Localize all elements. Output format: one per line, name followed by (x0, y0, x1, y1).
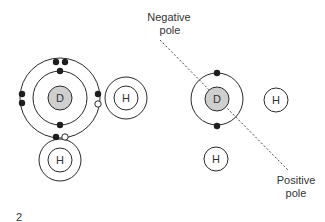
molecule-diagram: H H D D H H (0, 0, 325, 222)
electron-icon (214, 123, 220, 129)
electron-icon (53, 59, 59, 65)
right-h-bottom-label: H (212, 153, 220, 165)
left-d-label: D (56, 92, 64, 104)
electron-icon (57, 122, 63, 128)
left-h-right-label: H (122, 92, 130, 104)
electron-icon (53, 134, 59, 140)
right-d-label: D (213, 93, 221, 105)
right-h-right-label: H (272, 94, 280, 106)
electron-icon (95, 91, 101, 97)
positive-pole-label-line1: Positive (277, 174, 316, 186)
electron-icon (19, 91, 25, 97)
hydrogen-electron-icon (95, 101, 101, 107)
positive-pole-label-line2: pole (286, 187, 307, 199)
hydrogen-electron-icon (62, 134, 68, 140)
figure-number: 2 (16, 211, 22, 222)
left-molecule: H H D (19, 58, 147, 181)
negative-pole-label-line1: Negative (147, 11, 190, 23)
negative-pole-label-line2: pole (160, 24, 181, 36)
left-h-bottom-label: H (56, 154, 64, 166)
electron-icon (57, 68, 63, 74)
diagram-canvas: H H D D H H (0, 0, 325, 222)
electron-icon (19, 100, 25, 106)
electron-icon (62, 59, 68, 65)
electron-icon (214, 70, 220, 76)
